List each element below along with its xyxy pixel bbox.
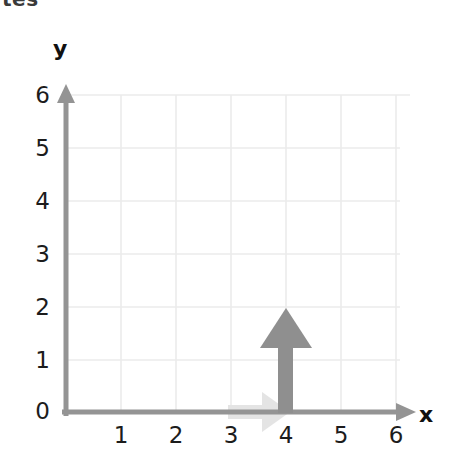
- x-tick-label-4: 4: [271, 422, 301, 448]
- y-tick-label-2: 2: [22, 294, 50, 320]
- x-tick-label-5: 5: [326, 422, 356, 448]
- y-axis: [57, 84, 75, 416]
- figure-canvas: tes: [0, 0, 460, 462]
- grid-horizontal-lines: [66, 95, 410, 360]
- y-axis-title: y: [53, 36, 67, 61]
- coordinate-plot: [0, 0, 460, 462]
- y-tick-label-4: 4: [22, 188, 50, 214]
- x-tick-label-1: 1: [106, 422, 136, 448]
- x-tick-label-6: 6: [381, 422, 411, 448]
- x-axis-title: x: [419, 402, 433, 427]
- y-tick-label-0: 0: [22, 398, 50, 424]
- y-tick-label-1: 1: [22, 347, 50, 373]
- y-tick-label-5: 5: [22, 135, 50, 161]
- x-tick-label-3: 3: [216, 422, 246, 448]
- x-tick-label-2: 2: [161, 422, 191, 448]
- y-tick-label-6: 6: [22, 82, 50, 108]
- y-tick-label-3: 3: [22, 241, 50, 267]
